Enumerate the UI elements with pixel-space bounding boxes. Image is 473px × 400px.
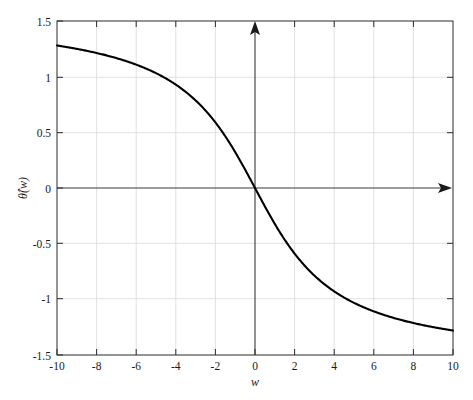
x-tick-label: 10 — [447, 360, 459, 372]
y-tick-label: 0.5 — [37, 127, 52, 139]
x-tick-label: -2 — [211, 360, 221, 372]
x-tick-label: 4 — [331, 360, 337, 372]
y-tick-label: 0 — [45, 183, 51, 195]
x-tick-label: -4 — [171, 360, 181, 372]
x-tick-label: 8 — [411, 360, 417, 372]
x-tick-label: -8 — [92, 360, 102, 372]
y-tick-label: 1 — [45, 72, 51, 84]
y-tick-label: -1 — [41, 293, 51, 305]
figure-background — [0, 0, 473, 400]
figure-container: -10 -8 -6 -4 -2 0 2 4 6 8 10 1.5 1 0.5 0… — [0, 0, 473, 400]
y-tick-label: 1.5 — [37, 16, 52, 28]
x-tick-label: 0 — [252, 360, 258, 372]
x-tick-label: 2 — [292, 360, 298, 372]
x-axis-title: w — [251, 375, 259, 389]
x-tick-label: 6 — [371, 360, 377, 372]
x-tick-label: -10 — [49, 360, 65, 372]
y-tick-label: -0.5 — [33, 238, 51, 250]
y-axis-title: θ̂(w) — [16, 177, 30, 199]
plot-svg: -10 -8 -6 -4 -2 0 2 4 6 8 10 1.5 1 0.5 0… — [0, 0, 473, 400]
x-tick-label: -6 — [131, 360, 141, 372]
y-tick-label: -1.5 — [33, 350, 51, 362]
